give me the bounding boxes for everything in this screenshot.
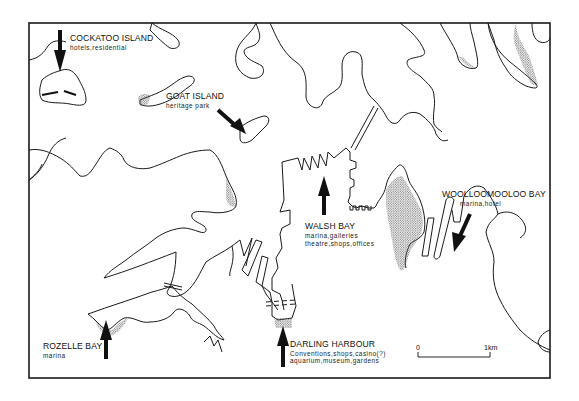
location-name: COCKATOO ISLAND bbox=[70, 34, 153, 43]
coastline-neutral-bay bbox=[440, 23, 478, 69]
location-uses: marina,hotel bbox=[460, 201, 546, 207]
coastline-sussex-street bbox=[272, 162, 290, 310]
label-cockatoo-island: COCKATOO ISLAND hotels,residential bbox=[70, 34, 153, 51]
coastline-balmain-peninsula bbox=[29, 148, 236, 278]
location-uses: hotels,residential bbox=[70, 45, 153, 51]
scale-start-label: 0 bbox=[416, 343, 420, 352]
location-name: WALSH BAY bbox=[305, 222, 374, 231]
arrow-walsh-bay bbox=[318, 176, 330, 215]
cockatoo-wharf-1 bbox=[42, 92, 58, 95]
coastline-north-east bbox=[532, 23, 550, 43]
location-name: ROZELLE BAY bbox=[43, 342, 102, 351]
cockatoo-island-outline bbox=[40, 69, 86, 105]
stipple-cremorne bbox=[514, 23, 538, 85]
scale-end-label: 1km bbox=[484, 343, 498, 352]
location-uses: heritage park bbox=[166, 103, 224, 109]
coastline-potts-point bbox=[452, 186, 550, 350]
location-uses: marina,galleries bbox=[305, 233, 374, 239]
location-uses: theatre,shops,offices bbox=[305, 241, 374, 247]
coastline-millers-point bbox=[282, 148, 376, 208]
coastline-north-west bbox=[150, 23, 179, 49]
cockatoo-wharf-2 bbox=[64, 91, 76, 95]
label-woolloomooloo-bay: WOOLLOOMOOLOO BAY marina,hotel bbox=[442, 190, 546, 207]
coastline-glebe-point bbox=[104, 246, 233, 296]
pyrmont-bridge bbox=[266, 300, 296, 306]
coastline-wharves-pyrmont-b bbox=[242, 240, 268, 286]
location-uses: marina bbox=[43, 353, 102, 359]
coastline-east-headland bbox=[538, 330, 550, 352]
coastline-woolloomooloo-pier bbox=[422, 218, 434, 256]
coastline-pyrmont bbox=[262, 286, 278, 310]
stipple-neutral-bay bbox=[458, 56, 476, 68]
location-uses: aquarium,museum,gardens bbox=[290, 358, 386, 364]
coastline-rushcutters bbox=[498, 212, 526, 238]
goat-island-outline bbox=[240, 116, 269, 143]
coastline-north-shore-c bbox=[386, 112, 448, 140]
arrow-woolloomooloo-bay bbox=[452, 214, 470, 252]
stipple-goat-headland bbox=[138, 94, 150, 107]
scale-bar bbox=[418, 352, 490, 357]
label-walsh-bay: WALSH BAY marina,galleries theatre,shops… bbox=[305, 222, 374, 247]
location-name: GOAT ISLAND bbox=[166, 92, 224, 101]
label-rozelle-bay: ROZELLE BAY marina bbox=[43, 342, 102, 359]
label-goat-island: GOAT ISLAND heritage park bbox=[166, 92, 224, 109]
coastline-north-shore-a bbox=[236, 23, 264, 78]
arrow-goat-island bbox=[218, 110, 246, 134]
location-name: WOOLLOOMOOLOO BAY bbox=[442, 190, 546, 199]
sydney-harbour-bridge bbox=[351, 106, 378, 150]
coastline-wharves-pyrmont-a bbox=[232, 238, 252, 266]
coastline-kirribilli bbox=[400, 23, 442, 132]
location-name: DARLING HARBOUR bbox=[290, 340, 386, 349]
label-darling-harbour: DARLING HARBOUR Conventions,shops,casino… bbox=[290, 340, 386, 364]
stipple-domain bbox=[386, 176, 423, 270]
arrow-darling-harbour bbox=[277, 326, 289, 367]
coastline-north-shore-b bbox=[270, 23, 386, 116]
stipple-balmain-tip bbox=[226, 178, 236, 207]
arrow-cockatoo-island bbox=[54, 30, 66, 72]
coastline-east-top bbox=[29, 164, 42, 180]
